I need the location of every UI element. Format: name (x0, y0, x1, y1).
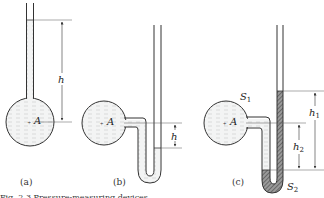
point-a-label-b: A (106, 116, 114, 127)
caption-c: (c) (232, 177, 244, 187)
figure-caption-fragment: Fig. 2.3 Pressure-measuring devices (0, 193, 148, 198)
caption-a: (a) (20, 177, 32, 187)
panel-a-piezometer: A + h (a) (6, 3, 72, 187)
manometer-figure: A + h (a) A + h (b) A + S (0, 0, 324, 198)
height-label-a: h (58, 74, 64, 85)
caption-b: (b) (113, 177, 126, 187)
point-a-label-c: A (229, 116, 237, 127)
surface-s1-label: S1 (240, 91, 251, 104)
panel-c-manometer: A + S1 S2 h1 h2 (c) (204, 25, 324, 194)
pipe-bulb-b (82, 101, 126, 145)
surface-s2-label: S2 (287, 181, 298, 194)
point-a-label: A (33, 115, 41, 126)
piezometer-tube (27, 3, 34, 102)
height-label-b: h (171, 131, 177, 142)
panel-b-u-tube: A + h (b) (82, 25, 182, 187)
